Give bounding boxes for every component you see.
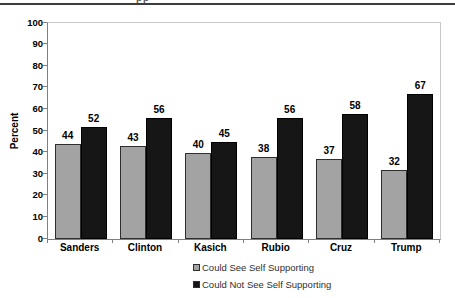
bar-trump-see	[381, 170, 407, 239]
bar-value-label: 56	[138, 104, 180, 115]
legend-label: Could Not See Self Supporting	[202, 279, 331, 290]
category-label: Cruz	[308, 242, 373, 254]
y-tick-label: 50	[2, 125, 43, 136]
y-tick-label: 30	[2, 168, 43, 179]
category-label: Clinton	[112, 242, 177, 254]
legend-item: Could Not See Self Supporting	[193, 279, 331, 289]
bar-value-label: 45	[203, 128, 245, 139]
y-tick-label: 70	[2, 81, 43, 92]
bar-cruz-see	[316, 159, 342, 239]
category-label: Trump	[374, 242, 439, 254]
legend: Could See Self SupportingCould Not See S…	[193, 262, 331, 296]
y-tick-label: 40	[2, 146, 43, 157]
bar-value-label: 58	[334, 100, 376, 111]
y-tick-label: 80	[2, 60, 43, 71]
y-tick-label: 20	[2, 189, 43, 200]
bar-rubio-see	[251, 157, 277, 239]
legend-item: Could See Self Supporting	[193, 262, 331, 272]
bar-value-label: 52	[73, 113, 115, 124]
category-label: Kasich	[178, 242, 243, 254]
bar-sanders-not-see	[81, 127, 107, 239]
bar-kasich-see	[185, 153, 211, 239]
legend-swatch	[193, 264, 200, 271]
bar-cruz-not-see	[342, 114, 368, 239]
bar-chart: Percent 0102030405060708090100 445243564…	[0, 0, 455, 298]
y-tick-label: 100	[2, 17, 43, 28]
bar-value-label: 67	[399, 80, 441, 91]
bar-clinton-see	[120, 146, 146, 239]
bar-trump-not-see	[407, 94, 433, 239]
bar-sanders-see	[55, 144, 81, 239]
y-tick-label: 90	[2, 38, 43, 49]
bar-value-label: 56	[269, 104, 311, 115]
legend-swatch	[193, 281, 200, 288]
category-label: Sanders	[47, 242, 112, 254]
category-label: Rubio	[243, 242, 308, 254]
bar-kasich-not-see	[211, 142, 237, 239]
x-tick-mark	[439, 239, 440, 243]
y-tick-label: 0	[2, 233, 43, 244]
bar-rubio-not-see	[277, 118, 303, 239]
legend-label: Could See Self Supporting	[202, 262, 314, 273]
bar-clinton-not-see	[146, 118, 172, 239]
y-tick-label: 10	[2, 211, 43, 222]
y-tick-label: 60	[2, 103, 43, 114]
plot-area: 445243564045385637583267	[47, 22, 441, 240]
document-page: pp Percent 0102030405060708090100 445243…	[0, 0, 455, 298]
